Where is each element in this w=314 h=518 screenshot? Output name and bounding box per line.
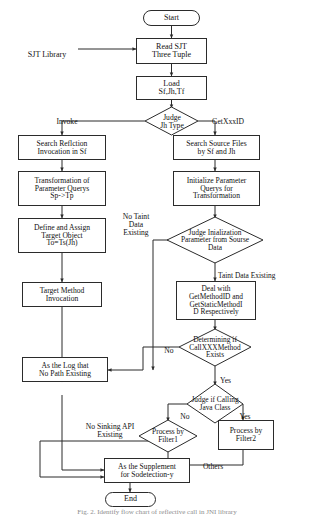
node-transformation-label: Transformation of Parameter Querys Sp->T… [34, 177, 89, 200]
label-no-taint-data-existing-text: No Taint Data Existing [123, 212, 150, 237]
label-invoke-text: Invoke [56, 117, 77, 126]
label-java-no: No [176, 405, 194, 421]
node-start: Start [143, 10, 200, 26]
label-determining-no-text: No [164, 346, 173, 355]
node-end: End [105, 492, 156, 507]
label-invoke: Invoke [46, 110, 88, 126]
node-load-label: Load Sf,Jh,Tf [159, 80, 185, 96]
node-judge-jh-type: Judge Jh Type [146, 108, 198, 135]
label-no-taint-data-existing: No Taint Data Existing [110, 205, 162, 237]
label-determining-yes-text: Yes [220, 376, 231, 385]
node-search-reflection-label: Search Reflction Invocation in Sf [37, 140, 88, 155]
label-java-no-text: No [180, 412, 189, 421]
node-search-source-files: Search Source Files by Sf and Jh [173, 135, 260, 160]
node-deal-with: Deal with GetMethodID and GetStaticMetho… [176, 281, 256, 320]
node-define-assign: Define and Assign Target Object To=Ts(Jh… [18, 218, 106, 253]
node-define-assign-label: Define and Assign Target Object To=Ts(Jh… [34, 224, 90, 247]
figure-caption-text: Fig. 2. Identify flow chart of reflectiv… [77, 508, 236, 516]
node-transformation: Transformation of Parameter Querys Sp->T… [18, 171, 106, 206]
node-filter2: Process by Filter2 [218, 420, 274, 450]
label-no-sinking-api-text: No Sinking API Existing [86, 422, 135, 439]
figure-caption: Fig. 2. Identify flow chart of reflectiv… [0, 508, 314, 516]
node-judge-jh-type-label: Judge Jh Type [160, 114, 184, 129]
node-judge-inialization-label: Judge Inialization Parameter from Sourse… [181, 229, 249, 252]
node-as-the-log-label: As the Log that No Path Existing [39, 362, 91, 377]
node-determining: Determining if CallXXXMethod Exists [180, 330, 250, 365]
node-start-label: Start [164, 14, 179, 22]
label-getxxxid-text: GetXxxID [212, 117, 244, 126]
label-sjt-library-text: SJT Library [28, 50, 66, 59]
node-initialize-parameter: Initialize Parameter Querys for Transfor… [173, 171, 260, 206]
node-search-source-files-label: Search Source Files by Sf and Jh [186, 140, 246, 155]
node-filter1-label: Process by Filter1 [152, 428, 184, 443]
node-supplement-label: As the Supplement for Sodetection-y [118, 463, 176, 478]
node-determining-label: Determining if CallXXXMethod Exists [189, 336, 240, 359]
label-determining-no: No [160, 339, 178, 355]
label-no-sinking-api: No Sinking API Existing [70, 415, 150, 439]
node-load: Load Sf,Jh,Tf [136, 76, 207, 100]
node-filter2-label: Process by Filter2 [230, 427, 263, 442]
node-read-sjt: Read SJT Three Tuple [136, 38, 207, 64]
label-determining-yes: Yes [220, 369, 242, 385]
node-read-sjt-label: Read SJT Three Tuple [152, 43, 191, 59]
label-getxxxid: GetXxxID [202, 110, 254, 126]
node-judge-java-class-label: Judge if Calling Java Class [191, 396, 238, 411]
node-supplement: As the Supplement for Sodetection-y [104, 458, 190, 483]
node-target-method-invocation: Target Method Invocation [22, 282, 102, 307]
node-search-reflection: Search Reflction Invocation in Sf [18, 135, 106, 160]
node-judge-inialization: Judge Inialization Parameter from Sourse… [168, 219, 262, 261]
node-target-method-invocation-label: Target Method Invocation [40, 287, 85, 302]
label-others-text: Others [203, 462, 223, 471]
label-taint-data-existing-text: Taint Data Existing [218, 271, 275, 280]
node-end-label: End [124, 495, 137, 503]
flowchart-canvas: Start End Read SJT Three Tuple Load Sf,J… [0, 0, 314, 518]
label-java-yes-text: Yes [239, 412, 250, 421]
node-as-the-log: As the Log that No Path Existing [22, 357, 108, 382]
label-java-yes: Yes [234, 405, 256, 421]
label-sjt-library: SJT Library [16, 43, 78, 60]
label-others: Others [195, 455, 231, 471]
node-deal-with-label: Deal with GetMethodID and GetStaticMetho… [189, 285, 243, 315]
label-taint-data-existing: Taint Data Existing [218, 264, 312, 279]
node-initialize-parameter-label: Initialize Parameter Querys for Transfor… [187, 177, 247, 200]
